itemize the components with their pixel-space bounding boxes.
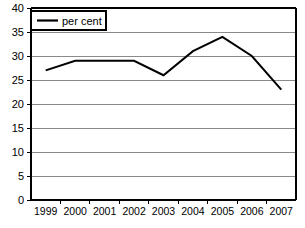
y-tick-label-5: 5 [18, 170, 24, 182]
y-tick-label-20: 20 [12, 98, 24, 110]
legend-label-per-cent: per cent [62, 15, 102, 27]
y-tick-label-30: 30 [12, 50, 24, 62]
x-tick-label-2002: 2002 [122, 205, 146, 217]
y-tick-label-25: 25 [12, 74, 24, 86]
y-tick-label-40: 40 [12, 2, 24, 14]
chart-canvas: 0510152025303540 19992000200120022003200… [0, 0, 305, 228]
x-tick-label-2000: 2000 [63, 205, 87, 217]
y-tick-label-35: 35 [12, 26, 24, 38]
x-tick-label-2003: 2003 [152, 205, 176, 217]
x-tick-label-2007: 2007 [270, 205, 294, 217]
x-axis-label-group: 199920002001200220032004200520062007 [34, 205, 293, 217]
x-tick-label-2001: 2001 [93, 205, 117, 217]
chart-background [0, 0, 305, 228]
x-tick-label-2005: 2005 [211, 205, 235, 217]
y-tick-label-15: 15 [12, 122, 24, 134]
y-tick-label-10: 10 [12, 146, 24, 158]
y-tick-label-0: 0 [18, 194, 24, 206]
x-tick-label-2004: 2004 [181, 205, 205, 217]
chart-legend: per cent [31, 11, 106, 30]
x-tick-label-2006: 2006 [240, 205, 264, 217]
line-chart-figure: 0510152025303540 19992000200120022003200… [0, 0, 305, 228]
x-tick-label-1999: 1999 [34, 205, 58, 217]
